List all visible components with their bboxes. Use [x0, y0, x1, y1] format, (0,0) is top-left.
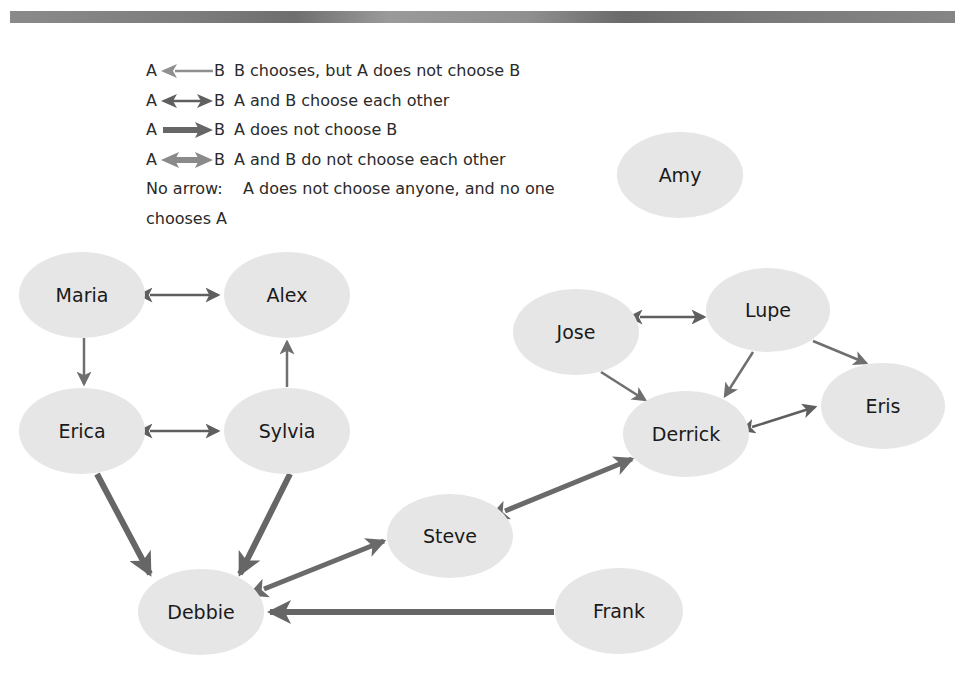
- node-eris: Eris: [821, 363, 945, 449]
- node-alex: Alex: [224, 252, 350, 338]
- node-sylvia: Sylvia: [224, 388, 350, 474]
- node-label: Debbie: [167, 601, 234, 623]
- node-label: Maria: [56, 284, 109, 306]
- edge-derrick-eris: [752, 407, 815, 427]
- node-jose: Jose: [513, 289, 639, 375]
- node-label: Eris: [866, 395, 901, 417]
- node-debbie: Debbie: [138, 569, 264, 655]
- node-label: Jose: [556, 321, 596, 343]
- node-amy: Amy: [617, 132, 743, 218]
- node-label: Frank: [593, 600, 645, 622]
- node-steve: Steve: [387, 494, 513, 578]
- edge-steve-derrick: [505, 459, 632, 511]
- node-label: Derrick: [652, 423, 720, 445]
- node-frank: Frank: [555, 568, 683, 654]
- node-erica: Erica: [19, 388, 145, 474]
- edge-sylvia-debbie: [240, 474, 290, 574]
- edge-lupe-derrick: [725, 352, 753, 396]
- edge-jose-derrick: [601, 372, 645, 400]
- node-derrick: Derrick: [623, 391, 749, 477]
- node-label: Lupe: [745, 299, 791, 321]
- node-label: Sylvia: [259, 420, 316, 442]
- edge-erica-debbie: [97, 474, 150, 574]
- node-maria: Maria: [19, 252, 145, 338]
- node-label: Amy: [659, 164, 702, 186]
- node-label: Alex: [267, 284, 308, 306]
- node-label: Steve: [423, 525, 477, 547]
- edge-lupe-eris: [813, 341, 866, 363]
- edge-steve-debbie: [264, 541, 384, 589]
- sociogram: Amy Maria Alex Erica Sylvia Jose Lupe De…: [0, 0, 970, 677]
- node-lupe: Lupe: [706, 268, 830, 352]
- node-label: Erica: [58, 420, 105, 442]
